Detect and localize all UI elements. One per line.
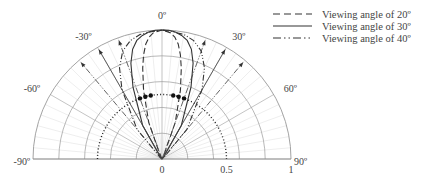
half-intensity-marker — [182, 96, 186, 100]
arrowhead-icon — [99, 50, 103, 55]
angle-tick-label: 60º — [284, 83, 297, 94]
angle-tick-label: -90º — [14, 156, 30, 167]
half-intensity-marker — [138, 96, 142, 100]
angle-tick-labels: 0º-30º30º-60º60º-90º90º — [14, 10, 308, 167]
polar-grid — [33, 30, 291, 159]
half-intensity-marker — [143, 94, 147, 98]
legend-label: Viewing angle of 40º — [322, 33, 411, 44]
radial-tick-label: 1 — [289, 164, 294, 175]
half-intensity-marker — [149, 93, 153, 97]
polar-chart: 0º-30º30º-60º60º-90º90º 00.51 Viewing an… — [0, 0, 422, 179]
angle-tick-label: 30º — [232, 31, 245, 42]
angle-tick-label: -30º — [75, 31, 91, 42]
half-intensity-marker — [176, 94, 180, 98]
legend-label: Viewing angle of 30º — [322, 21, 411, 32]
arrowhead-icon — [119, 40, 123, 45]
half-intensity-marker — [171, 93, 175, 97]
legend: Viewing angle of 20ºViewing angle of 30º… — [273, 9, 411, 44]
arrowhead-icon — [202, 40, 206, 45]
angle-tick-label: 0º — [158, 10, 166, 21]
radial-tick-label: 0 — [160, 164, 165, 175]
grid-spoke — [33, 148, 162, 159]
arrowhead-icon — [221, 50, 225, 55]
radial-tick-labels: 00.51 — [160, 164, 294, 175]
angle-tick-label: 90º — [294, 156, 307, 167]
legend-label: Viewing angle of 20º — [322, 9, 411, 20]
angle-tick-label: -60º — [24, 83, 40, 94]
grid-spoke — [162, 126, 287, 159]
radial-tick-label: 0.5 — [220, 164, 233, 175]
